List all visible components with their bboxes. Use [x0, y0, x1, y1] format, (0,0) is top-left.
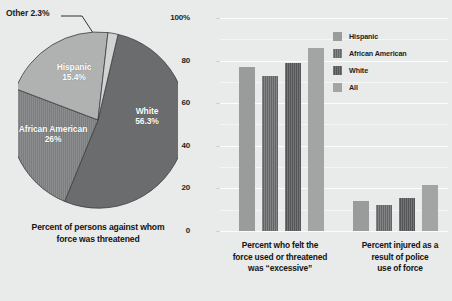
legend-swatch-white — [333, 66, 342, 75]
legend-swatch-african-american — [333, 49, 342, 58]
bar-group2-white — [399, 198, 415, 231]
pie-label-hispanic-value: 15.4% — [48, 72, 100, 82]
bar-chart-legend: Hispanic African American White All — [333, 28, 445, 96]
legend-item-african-american[interactable]: African American — [333, 45, 445, 62]
x-axis-caption-group2: Percent injured as a result of police us… — [348, 240, 452, 275]
bar-group2-hispanic — [353, 201, 369, 231]
ytick-mark-40 — [216, 146, 220, 147]
bar-group1-white — [285, 63, 301, 231]
pie-chart-panel: Other 2.3% — [0, 0, 196, 301]
ytick-label-40: 40 — [150, 141, 190, 150]
pie-label-hispanic-name: Hispanic — [48, 62, 100, 72]
ytick-mark-0 — [216, 231, 220, 232]
pie-label-hispanic: Hispanic 15.4% — [48, 62, 100, 82]
pie-label-aa-value: 26% — [10, 134, 96, 144]
x-axis-caption-group1: Percent who felt the force used or threa… — [212, 240, 348, 275]
ytick-mark-80 — [216, 61, 220, 62]
legend-swatch-hispanic — [333, 32, 342, 41]
pie-label-white: White 56.3% — [121, 106, 173, 126]
x-axis-caption-group1-line-1: Percent who felt the — [212, 240, 348, 252]
legend-label-all: All — [349, 83, 358, 92]
pie-label-white-value: 56.3% — [121, 116, 173, 126]
legend-item-all[interactable]: All — [333, 79, 445, 96]
bar-group1-all — [308, 48, 324, 231]
pie-label-african-american: African American 26% — [10, 124, 96, 144]
ytick-mark-20 — [216, 188, 220, 189]
legend-label-african-american: African American — [349, 49, 407, 58]
figure-root: Other 2.3% — [0, 0, 452, 301]
legend-label-white: White — [349, 66, 368, 75]
x-axis-caption-group2-line-1: Percent injured as a — [348, 240, 452, 252]
x-axis-caption-group1-line-3: was “excessive” — [212, 263, 348, 275]
legend-item-hispanic[interactable]: Hispanic — [333, 28, 445, 45]
bar-group2-all — [422, 185, 438, 231]
pie-label-aa-name: African American — [10, 124, 96, 134]
ytick-label-60: 60 — [150, 98, 190, 107]
x-axis-caption-group2-line-3: use of force — [348, 263, 452, 275]
bar-chart-panel: 100% 80 60 40 20 0 — [196, 0, 452, 301]
legend-item-white[interactable]: White — [333, 62, 445, 79]
ytick-label-0: 0 — [150, 226, 190, 235]
pie-label-white-name: White — [121, 106, 173, 116]
ytick-mark-60 — [216, 103, 220, 104]
ytick-label-100: 100% — [150, 13, 190, 22]
bar-group1-hispanic — [239, 67, 255, 231]
gridline-100 — [220, 18, 448, 19]
pie-caption-line-2: force was threatened — [8, 234, 188, 246]
legend-label-hispanic: Hispanic — [349, 32, 378, 41]
bar-group2-african-american — [376, 205, 392, 231]
bar-group1-african-american — [262, 76, 278, 232]
ytick-label-20: 20 — [150, 183, 190, 192]
x-axis-caption-group2-line-2: result of police — [348, 252, 452, 264]
gridline-0 — [220, 231, 448, 232]
ytick-label-80: 80 — [150, 56, 190, 65]
ytick-mark-100 — [216, 18, 220, 19]
x-axis-caption-group1-line-2: force used or threatened — [212, 252, 348, 264]
legend-swatch-all — [333, 83, 342, 92]
